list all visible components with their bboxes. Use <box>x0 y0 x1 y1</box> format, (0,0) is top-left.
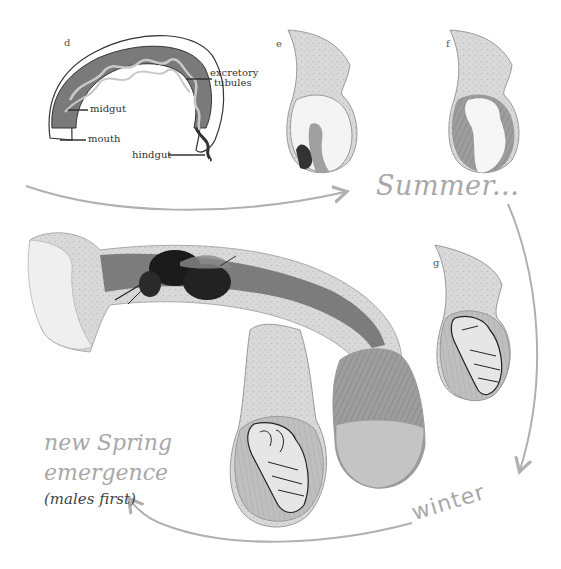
nest-cell-f <box>449 30 519 173</box>
nest-cell-e <box>287 30 357 173</box>
label-mouth: mouth <box>88 134 120 144</box>
panel-label-e: e <box>276 38 282 49</box>
nest-cell-g <box>435 245 510 401</box>
season-summer: Summer... <box>376 170 519 201</box>
arrow-to-winter <box>508 204 537 470</box>
panel-label-f: f <box>446 38 450 49</box>
larva-gut-diagram <box>49 36 224 160</box>
nest-cell-pupa <box>230 324 326 527</box>
spring-note: (males first) <box>44 490 136 508</box>
season-spring: new Spring emergence <box>44 428 172 488</box>
label-tubules: tubules <box>214 78 252 88</box>
spring-line-1: new Spring <box>44 428 172 458</box>
arrow-to-summer <box>26 186 345 210</box>
spring-line-2: emergence <box>44 458 172 488</box>
panel-label-g: g <box>433 257 439 268</box>
label-midgut: midgut <box>90 104 126 114</box>
nest-tunnel <box>28 233 402 365</box>
panel-label-d: d <box>64 37 70 48</box>
label-hindgut: hindgut <box>132 150 171 160</box>
nest-cell-pollen <box>333 349 425 488</box>
